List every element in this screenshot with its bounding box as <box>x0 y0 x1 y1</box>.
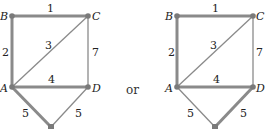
vertex-label-b: B <box>164 10 173 23</box>
weight-bc: 1 <box>212 2 219 15</box>
weight-bc: 1 <box>47 2 54 15</box>
weight-de: 5 <box>75 107 82 120</box>
edge-de <box>51 87 88 127</box>
vertex-a <box>174 84 180 90</box>
vertex-label-a: A <box>0 82 8 95</box>
vertex-a <box>9 84 15 90</box>
weight-ac: 3 <box>210 39 217 52</box>
graph-right: B C A D 1 2 3 4 7 5 5 <box>164 2 265 129</box>
vertex-label-d: D <box>255 82 265 95</box>
weight-ac: 3 <box>45 39 52 52</box>
vertex-d <box>250 84 256 90</box>
vertex-b <box>9 13 15 19</box>
weight-ad: 4 <box>48 73 55 86</box>
weight-cd: 7 <box>92 46 99 59</box>
weight-ba: 2 <box>2 46 9 59</box>
or-connector: or <box>126 83 139 97</box>
spanning-tree-diagram: B C A D 1 2 3 4 7 5 5 or B C A D 1 2 3 4… <box>0 0 265 129</box>
vertex-label-c: C <box>92 10 101 23</box>
vertex-e <box>48 124 54 129</box>
vertex-label-c: C <box>256 10 265 23</box>
weight-ae: 5 <box>187 107 194 120</box>
edge-de <box>215 87 253 127</box>
weight-ad: 4 <box>213 73 220 86</box>
weight-ba: 2 <box>168 46 175 59</box>
vertex-d <box>85 84 91 90</box>
vertex-e <box>212 124 218 129</box>
vertex-c <box>85 13 91 19</box>
weight-de: 5 <box>240 107 247 120</box>
vertex-label-a: A <box>164 82 173 95</box>
vertex-label-b: B <box>0 10 8 23</box>
vertex-c <box>250 13 256 19</box>
vertex-label-d: D <box>91 82 101 95</box>
edge-ae <box>12 87 51 127</box>
weight-ae: 5 <box>22 107 29 120</box>
weight-cd: 7 <box>256 46 263 59</box>
vertex-b <box>174 13 180 19</box>
graph-left: B C A D 1 2 3 4 7 5 5 <box>0 2 101 129</box>
edge-ae <box>177 87 215 127</box>
